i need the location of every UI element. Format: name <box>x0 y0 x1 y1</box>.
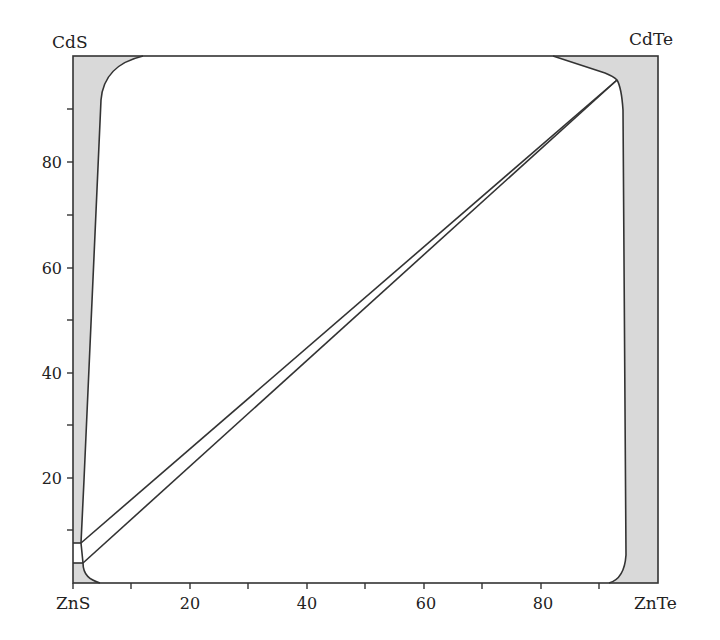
right-single-phase-region <box>553 56 658 583</box>
phase-diagram: 80 60 40 20 20 40 60 80 CdS CdTe ZnS ZnT… <box>0 0 720 640</box>
corner-label-zns: ZnS <box>56 593 90 613</box>
x-tick-label-20: 20 <box>180 594 200 613</box>
corner-label-znte: ZnTe <box>634 593 677 613</box>
right-phase-boundary <box>553 56 626 583</box>
y-tick-label-80: 80 <box>42 153 62 172</box>
left-bottom-region <box>73 563 100 583</box>
y-tick-label-40: 40 <box>42 364 62 383</box>
x-tick-label-60: 60 <box>416 594 436 613</box>
y-tick-label-60: 60 <box>42 259 62 278</box>
x-tick-label-80: 80 <box>533 594 553 613</box>
left-single-phase-region <box>73 56 143 543</box>
x-tick-label-40: 40 <box>297 594 317 613</box>
y-tick-label-20: 20 <box>42 469 62 488</box>
upper-tie-line <box>81 80 617 543</box>
plot-frame <box>73 56 658 583</box>
lower-tie-line <box>83 80 617 563</box>
y-axis-ticks <box>67 109 73 530</box>
x-axis-ticks <box>73 583 599 589</box>
corner-label-cdte: CdTe <box>629 29 673 49</box>
corner-label-cds: CdS <box>52 32 88 52</box>
